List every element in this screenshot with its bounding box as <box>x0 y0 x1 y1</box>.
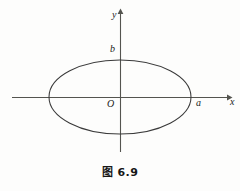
y-axis-arrowhead <box>118 9 124 14</box>
x-axis-label: x <box>230 97 234 107</box>
semi-minor-axis-label-b: b <box>110 44 115 54</box>
figure-container: y x b a O 图 6.9 <box>0 0 240 191</box>
origin-label: O <box>107 99 114 109</box>
y-axis-label: y <box>112 10 116 20</box>
semi-major-axis-label-a: a <box>196 98 201 108</box>
figure-caption: 图 6.9 <box>0 163 240 179</box>
